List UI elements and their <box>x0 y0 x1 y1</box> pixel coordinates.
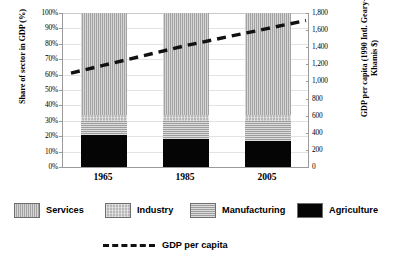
legend-sectors: Services Industry Manufacturing Agricult… <box>0 200 406 222</box>
y-left-tick-100: 100% <box>42 9 58 17</box>
legend-swatch-industry-icon <box>105 203 131 218</box>
y-left-tick-30: 30% <box>45 117 58 125</box>
legend-item-agriculture[interactable]: Agriculture <box>297 200 378 220</box>
y-right-tick-200: 200 <box>312 146 323 154</box>
legend-label-manufacturing: Manufacturing <box>222 205 285 215</box>
y-right-tickmark <box>306 64 309 65</box>
y-right-tick-400: 400 <box>312 129 323 137</box>
y-right-tickmark <box>306 133 309 134</box>
y-right-tickmark <box>306 47 309 48</box>
y-axis-right-title: GDP per capita (1990 Intl. Geary-Khamis … <box>360 0 380 123</box>
y-left-tick-20: 20% <box>45 132 58 140</box>
y-left-tick-70: 70% <box>45 55 58 63</box>
legend-item-manufacturing[interactable]: Manufacturing <box>190 200 285 220</box>
x-label-2005: 2005 <box>237 171 297 182</box>
legend-item-services[interactable]: Services <box>14 200 84 220</box>
y-right-tickmark <box>306 13 309 14</box>
y-left-tick-90: 90% <box>45 24 58 32</box>
y-right-tick-1800: 1,800 <box>312 9 328 17</box>
y-right-tick-1200: 1,200 <box>312 60 328 68</box>
y-axis-right-tick-labels: 1,800 1,600 1,400 1,200 1,000 800 600 40… <box>312 0 346 180</box>
legend-swatch-manufacturing-icon <box>190 203 216 218</box>
y-left-tick-60: 60% <box>45 71 58 79</box>
y-left-tick-80: 80% <box>45 40 58 48</box>
y-right-tickmark <box>306 30 309 31</box>
legend-label-gdp-per-capita: GDP per capita <box>162 240 228 250</box>
y-axis-right-line <box>308 13 309 168</box>
y-right-tick-0: 0 <box>312 163 316 171</box>
y-right-tick-1400: 1,400 <box>312 43 328 51</box>
legend-label-services: Services <box>46 205 84 215</box>
plot-area <box>62 13 309 168</box>
legend-dashed-line-icon <box>103 244 155 247</box>
y-left-tick-10: 10% <box>45 148 58 156</box>
y-right-tickmark <box>306 167 309 168</box>
y-left-tick-50: 50% <box>45 86 58 94</box>
legend-label-agriculture: Agriculture <box>329 205 378 215</box>
y-right-tickmark <box>306 116 309 117</box>
x-axis-tick-labels: 1965 1985 2005 <box>62 171 308 189</box>
y-right-tick-600: 600 <box>312 112 323 120</box>
legend-label-industry: Industry <box>137 205 173 215</box>
y-axis-left-tick-labels: 100% 90% 80% 70% 60% 50% 40% 30% 20% 10%… <box>22 0 60 180</box>
chart-container: Share of sector in GDP (%) 100% 90% 80% … <box>0 0 406 276</box>
legend-item-gdp-per-capita[interactable]: GDP per capita <box>103 240 228 250</box>
y-left-tick-40: 40% <box>45 101 58 109</box>
y-right-tick-1600: 1,600 <box>312 26 328 34</box>
y-left-tick-0: 0% <box>49 163 58 171</box>
gdp-per-capita-line <box>63 13 309 167</box>
y-right-tickmark <box>306 81 309 82</box>
y-right-tickmark <box>306 150 309 151</box>
y-right-tickmark <box>306 99 309 100</box>
legend-swatch-services-icon <box>14 203 40 218</box>
y-right-tick-800: 800 <box>312 95 323 103</box>
legend-item-industry[interactable]: Industry <box>105 200 173 220</box>
y-right-tick-1000: 1,000 <box>312 77 328 85</box>
x-label-1985: 1985 <box>155 171 215 182</box>
legend-line: GDP per capita <box>0 240 406 260</box>
legend-swatch-agriculture-icon <box>297 203 323 218</box>
x-label-1965: 1965 <box>73 171 133 182</box>
